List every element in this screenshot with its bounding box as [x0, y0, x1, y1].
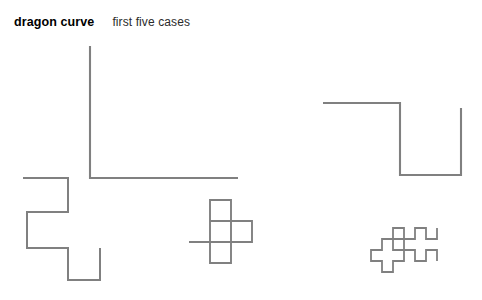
dragon-curve-case-2	[323, 103, 461, 175]
dragon-curve-case-4	[189, 200, 252, 263]
dragon-curve-case-5	[371, 228, 437, 272]
dragon-curve-figure: dragon curve first five cases	[0, 0, 482, 300]
dragon-curve-case-1	[90, 46, 238, 178]
dragon-curve-plot	[0, 0, 482, 300]
dragon-curve-case-3	[23, 178, 100, 280]
